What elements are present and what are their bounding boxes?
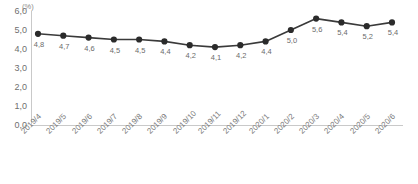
x-axis-tick-label: 2020/6 bbox=[374, 113, 397, 136]
x-axis-tick-label: 2019/6 bbox=[71, 113, 94, 136]
x-axis-tick-label: 2019/11 bbox=[197, 110, 223, 136]
x-axis-tick-label: 2020/1 bbox=[248, 113, 271, 136]
line-chart: (%) 6,0 5,0 4,0 3,0 2,0 1,0 0,0 4,84,74,… bbox=[0, 0, 418, 184]
x-axis-tick-label: 2020/3 bbox=[298, 113, 321, 136]
x-axis-tick-label: 2020/4 bbox=[323, 113, 346, 136]
x-axis-tick-label: 2020/2 bbox=[273, 113, 296, 136]
x-axis-tick-label: 2019/8 bbox=[121, 113, 144, 136]
x-axis-tick-label: 2020/5 bbox=[349, 113, 372, 136]
x-axis-tick-labels: 2019/42019/52019/62019/72019/82019/92019… bbox=[0, 0, 418, 184]
x-axis-tick-label: 2019/10 bbox=[172, 110, 198, 136]
x-axis-tick-label: 2019/9 bbox=[146, 113, 169, 136]
x-axis-tick-label: 2019/5 bbox=[45, 113, 68, 136]
x-axis-tick-label: 2019/12 bbox=[222, 110, 248, 136]
x-axis-tick-label: 2019/7 bbox=[96, 113, 119, 136]
x-axis-tick-label: 2019/4 bbox=[20, 113, 43, 136]
